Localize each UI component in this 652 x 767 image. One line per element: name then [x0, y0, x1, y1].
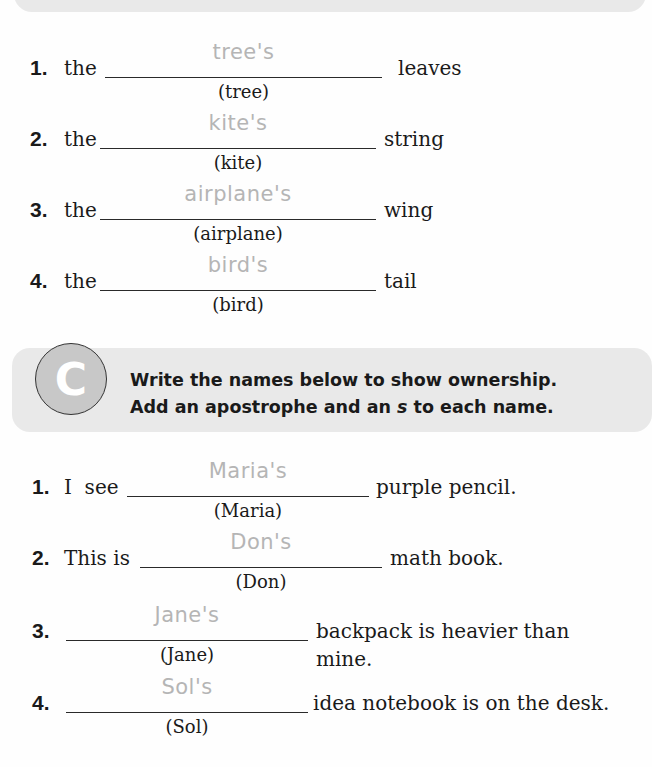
hint-word: (airplane): [100, 223, 376, 245]
hint-word: (tree): [105, 81, 382, 103]
item-suffix: wing: [384, 196, 433, 224]
item-suffix: tail: [384, 267, 417, 295]
item-prefix: I see: [64, 473, 119, 501]
item-prefix: This is: [64, 544, 130, 572]
answer-text: tree's: [105, 40, 382, 64]
exercise-c-item-3: 3. Jane's (Jane) backpack is heavier tha…: [0, 617, 632, 677]
answer-blank[interactable]: [105, 76, 382, 78]
answer-text: kite's: [100, 111, 376, 135]
item-number: 1.: [30, 54, 48, 82]
hint-word: (Don): [140, 571, 382, 593]
instruction-line-1: Write the names below to show ownership.: [130, 369, 557, 391]
instruction-s: s: [397, 397, 407, 417]
answer-blank[interactable]: [66, 711, 308, 713]
answer-blank[interactable]: [140, 566, 382, 568]
hint-word: (Maria): [127, 500, 369, 522]
instruction-text-b: to each name.: [407, 397, 553, 417]
exercise-c-item-1: 1. I see Maria's (Maria) purple pencil.: [0, 473, 632, 533]
item-number: 3.: [32, 617, 50, 645]
hint-word: (Sol): [66, 716, 308, 738]
exercise-b-item-4: 4. the bird's (bird) tail: [0, 267, 632, 327]
section-c-badge: C: [35, 343, 107, 415]
answer-blank[interactable]: [66, 639, 308, 641]
item-prefix: the: [64, 196, 97, 224]
item-suffix: leaves: [398, 54, 462, 82]
answer-text: airplane's: [100, 182, 376, 206]
answer-blank[interactable]: [100, 289, 376, 291]
exercise-c-item-2: 2. This is Don's (Don) math book.: [0, 544, 632, 604]
item-prefix: the: [64, 267, 97, 295]
answer-text: Maria's: [127, 459, 369, 483]
item-number: 2.: [32, 544, 50, 572]
answer-text: Don's: [140, 530, 382, 554]
hint-word: (kite): [100, 152, 376, 174]
answer-text: Jane's: [66, 603, 308, 627]
exercise-c-item-4: 4. Sol's (Sol) idea notebook is on the d…: [0, 689, 632, 749]
item-prefix: the: [64, 125, 97, 153]
item-number: 4.: [32, 689, 50, 717]
instruction-text-a: Add an apostrophe and an: [130, 397, 397, 417]
instruction-line-2: Add an apostrophe and an s to each name.: [130, 396, 554, 418]
hint-word: (Jane): [66, 644, 308, 666]
answer-blank[interactable]: [100, 218, 376, 220]
item-number: 1.: [32, 473, 50, 501]
item-suffix: idea notebook is on the desk.: [313, 689, 609, 717]
hint-word: (bird): [100, 294, 376, 316]
answer-blank[interactable]: [100, 147, 376, 149]
item-number: 4.: [30, 267, 48, 295]
answer-text: bird's: [100, 253, 376, 277]
item-suffix: math book.: [390, 544, 504, 572]
item-suffix: backpack is heavier than mine.: [316, 617, 632, 673]
answer-blank[interactable]: [127, 495, 369, 497]
item-suffix: string: [384, 125, 444, 153]
exercise-b-item-2: 2. the kite's (kite) string: [0, 125, 632, 185]
item-number: 2.: [30, 125, 48, 153]
item-suffix: purple pencil.: [376, 473, 517, 501]
answer-text: Sol's: [66, 675, 308, 699]
exercise-b-item-3: 3. the airplane's (airplane) wing: [0, 196, 632, 256]
previous-section-banner: [14, 0, 646, 12]
item-number: 3.: [30, 196, 48, 224]
item-prefix: the: [64, 54, 97, 82]
exercise-b-item-1: 1. the tree's (tree) leaves: [0, 54, 632, 114]
